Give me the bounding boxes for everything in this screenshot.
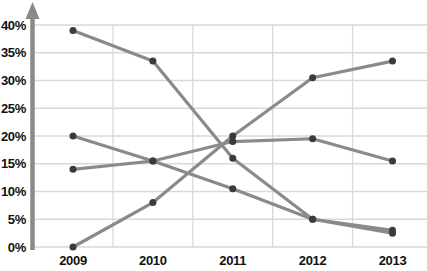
plot-area: 0%5%10%15%20%25%30%35%40%200920102011201… (0, 0, 427, 271)
data-point-marker (70, 244, 77, 251)
data-point-marker (229, 133, 236, 140)
data-point-marker (389, 230, 396, 237)
data-point-marker (309, 135, 316, 142)
y-tick-label: 5% (8, 212, 27, 227)
x-tick-label: 2011 (219, 253, 246, 268)
y-tick-label: 20% (1, 129, 27, 144)
data-point-marker (70, 133, 77, 140)
data-point-marker (149, 199, 156, 206)
y-tick-label: 25% (1, 101, 27, 116)
data-point-marker (309, 74, 316, 81)
y-tick-label: 15% (1, 156, 27, 171)
data-point-marker (229, 155, 236, 162)
data-point-marker (309, 216, 316, 223)
y-axis-arrow-icon (26, 2, 40, 19)
x-tick-label: 2013 (379, 253, 407, 268)
data-point-marker (70, 166, 77, 173)
data-point-marker (70, 27, 77, 34)
data-point-marker (149, 157, 156, 164)
y-tick-label: 0% (8, 240, 27, 255)
x-tick-label: 2010 (139, 253, 167, 268)
data-point-marker (389, 58, 396, 65)
data-point-marker (389, 157, 396, 164)
x-tick-label: 2009 (59, 253, 87, 268)
y-tick-label: 40% (1, 18, 27, 33)
y-tick-label: 35% (1, 45, 27, 60)
data-point-marker (229, 185, 236, 192)
data-point-marker (149, 58, 156, 65)
y-tick-label: 10% (1, 184, 27, 199)
y-tick-label: 30% (1, 73, 27, 88)
series-line-series-1 (73, 31, 393, 231)
x-tick-label: 2012 (299, 253, 327, 268)
line-chart: 0%5%10%15%20%25%30%35%40%200920102011201… (0, 0, 427, 271)
